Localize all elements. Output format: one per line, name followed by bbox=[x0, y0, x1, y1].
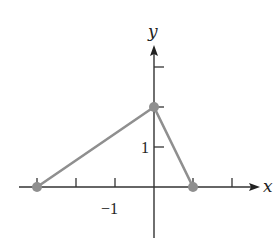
point-0-2 bbox=[149, 102, 159, 112]
graph-line bbox=[37, 107, 193, 187]
x-axis-label: x bbox=[263, 176, 273, 196]
x-tick-label-neg1: −1 bbox=[101, 200, 118, 217]
coordinate-plane: x y −1 1 bbox=[0, 0, 279, 252]
y-axis-label: y bbox=[147, 21, 158, 41]
point-1-0 bbox=[188, 182, 198, 192]
x-ticks bbox=[37, 178, 232, 187]
point-neg3-0 bbox=[32, 182, 42, 192]
y-tick-label-1: 1 bbox=[141, 139, 149, 156]
